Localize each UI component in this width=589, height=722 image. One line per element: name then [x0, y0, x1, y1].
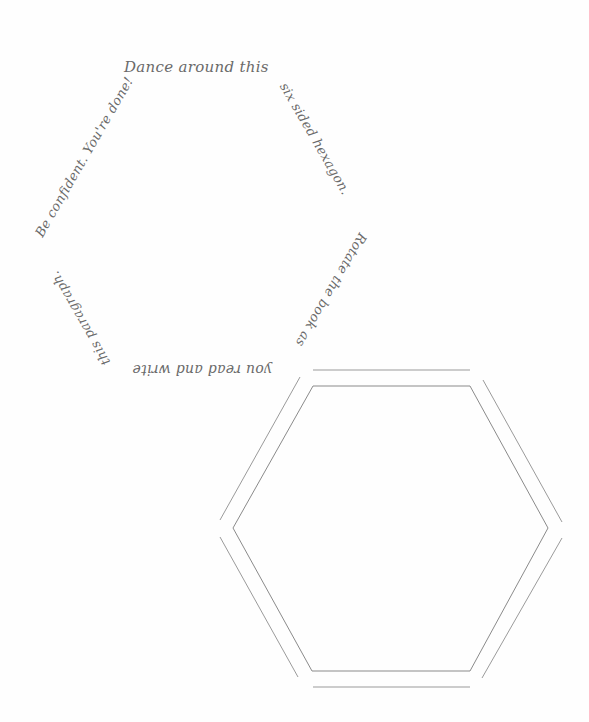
outer-line-upper-right [483, 380, 562, 522]
practice-hexagon [0, 0, 589, 722]
worksheet-page: Dance around this six sided hexagon. Rot… [0, 0, 589, 722]
outer-guide-lines [220, 370, 562, 687]
outer-line-upper-left [220, 377, 300, 520]
outer-line-lower-left [220, 537, 298, 677]
inner-hexagon-outline [233, 386, 548, 671]
outer-line-lower-right [482, 538, 562, 678]
